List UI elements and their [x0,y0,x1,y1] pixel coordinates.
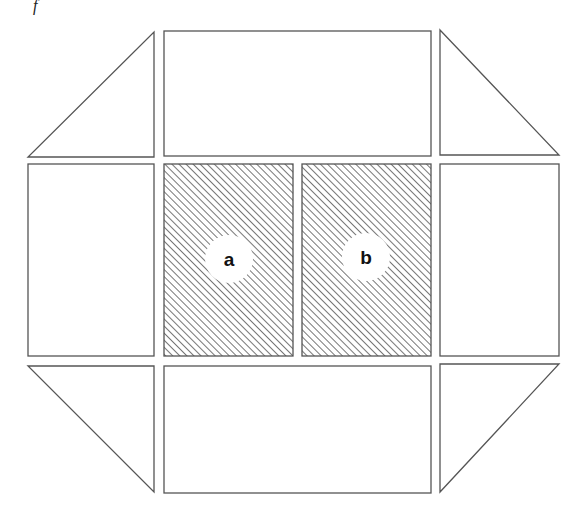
panel-b-label: b [360,247,372,268]
bottom-rectangle [164,366,431,493]
bottom-right-triangle [440,364,559,492]
top-left-triangle [28,32,154,157]
left-rectangle [28,164,154,356]
panel-a-label: a [224,249,235,270]
top-rectangle [164,31,431,156]
right-rectangle [440,164,559,356]
unfolded-box-diagram: a b [0,0,581,515]
bottom-left-triangle [28,366,154,492]
top-right-triangle [440,30,559,155]
